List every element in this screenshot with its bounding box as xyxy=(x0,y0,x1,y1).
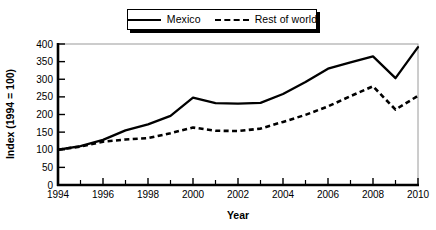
x-tick-label: 1998 xyxy=(137,189,160,200)
y-tick-label: 350 xyxy=(36,56,53,67)
x-axis-title: Year xyxy=(227,209,249,221)
x-tick-label: 2004 xyxy=(272,189,295,200)
x-tick-label: 1996 xyxy=(92,189,115,200)
y-tick-label: 250 xyxy=(36,91,53,102)
plot-frame xyxy=(58,44,418,185)
x-tick-label: 2010 xyxy=(407,189,430,200)
chart-plot-area: 050100150200250300350400 199419961998200… xyxy=(0,0,436,230)
y-tick-label: 100 xyxy=(36,144,53,155)
chart-figure: Mexico Rest of world 0501001502002503003… xyxy=(0,0,436,230)
y-axis: 050100150200250300350400 xyxy=(36,39,65,191)
x-tick-label: 2002 xyxy=(227,189,250,200)
y-tick-label: 50 xyxy=(42,162,54,173)
y-tick-label: 200 xyxy=(36,109,53,120)
x-tick-label: 2008 xyxy=(362,189,385,200)
y-tick-label: 400 xyxy=(36,39,53,50)
y-tick-label: 300 xyxy=(36,74,53,85)
x-tick-label: 2000 xyxy=(182,189,205,200)
y-axis-title: Index (1994 = 100) xyxy=(4,69,16,159)
x-tick-label: 2006 xyxy=(317,189,340,200)
y-tick-label: 150 xyxy=(36,127,53,138)
x-tick-label: 1994 xyxy=(47,189,70,200)
